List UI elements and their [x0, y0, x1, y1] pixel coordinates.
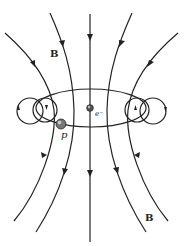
field-label-bottom: B	[145, 212, 153, 223]
field-label-top: B	[50, 48, 58, 59]
proton-dot	[56, 119, 66, 129]
proton: p	[56, 119, 68, 140]
loop-circle	[140, 98, 166, 124]
electron-label: e⁻	[95, 110, 103, 118]
arrow-down-icon	[113, 167, 119, 174]
arrow-down-icon	[30, 60, 35, 67]
proton-highlight	[58, 121, 62, 125]
electron: e⁻	[87, 105, 103, 118]
arrow-down-icon	[59, 40, 65, 47]
arrow-up-icon	[134, 105, 137, 110]
electron-dot	[87, 105, 94, 112]
arrow-down-icon	[62, 168, 68, 175]
arrow-down-icon	[147, 60, 154, 67]
electron-highlight	[88, 106, 90, 108]
arrow-down-icon	[41, 152, 47, 158]
field-diagram: e⁻ p B B	[0, 0, 184, 246]
arrow-down-icon	[45, 105, 48, 110]
field-line-outer-right	[128, 33, 178, 221]
field-line-outer-left	[5, 33, 54, 221]
proton-label: p	[61, 129, 68, 140]
arrow-down-icon	[87, 34, 93, 41]
arrow-down-icon	[119, 40, 125, 47]
arrow-down-icon	[87, 170, 93, 177]
